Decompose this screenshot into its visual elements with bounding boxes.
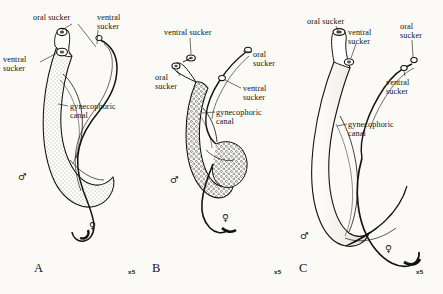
panel-b-drawing [172,47,251,232]
female-symbol-b: ♀ [222,212,229,223]
panel-letter-b: B [152,261,160,276]
label-a-ventral-sucker-top: ventral sucker [97,13,120,32]
panel-letter-c: C [299,261,307,276]
leader-b-ventral-sucker-top [190,38,191,54]
panel-a-drawing [43,28,117,241]
label-c-gynecophoric-canal: gynecophoric canal [348,120,394,139]
male-symbol-b: ♂ [170,174,179,185]
leader-a-oral-sucker-2 [78,24,96,47]
label-b-gynecophoric-canal: gynecophoric canal [216,108,262,127]
label-c-oral-sucker-right: oral sucker [400,22,422,41]
scale-marker-a: x5 [128,268,135,275]
female-ventral-sucker-b [219,75,226,80]
label-a-gynecophoric-canal: gynecophoric canal [70,102,116,121]
female-symbol-a: ♀ [89,220,96,231]
female-posterior-lobe-b [212,142,247,188]
label-c-oral-sucker-left: oral sucker [307,17,344,26]
male-symbol-c: ♂ [300,230,309,241]
label-b-oral-sucker-right: oral sucker [253,50,275,69]
schistosome-illustration [0,0,443,294]
label-a-ventral-sucker-left: ventral sucker [3,55,26,74]
label-b-oral-sucker-left: oral sucker [155,73,177,92]
leader-b-ventral-sucker-right [225,80,241,88]
label-c-ventral-sucker-mid: ventral sucker [348,28,371,47]
label-b-ventral-sucker-top: ventral sucker [164,28,212,37]
female-symbol-c: ♀ [385,243,392,254]
female-ventral-sucker-c [401,66,407,71]
female-worm-a [72,40,117,241]
panel-letter-a: A [34,261,43,276]
scale-marker-c: x5 [416,268,423,275]
scale-marker-b: x5 [274,268,281,275]
label-b-ventral-sucker-right: ventral sucker [243,84,266,103]
leader-c-gynecophoric-canal [337,124,347,126]
label-a-oral-sucker: oral sucker [33,13,70,22]
female-worm-b [206,52,246,144]
panel-c-drawing [312,29,420,267]
figure-canvas: oral sucker ventral sucker ventral sucke… [0,0,443,294]
leader-c-oral-sucker-right [412,40,413,57]
female-oral-sucker-c [411,57,417,62]
leader-a-oral-sucker [62,24,72,30]
female-oral-sucker-a [96,35,102,40]
male-symbol-a: ♂ [18,171,27,182]
label-c-ventral-sucker-right: ventral sucker [386,78,409,97]
